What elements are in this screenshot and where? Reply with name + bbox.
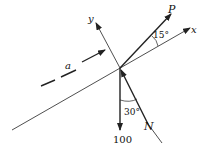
acceleration-dash-1: [41, 80, 55, 86]
y-axis-label: y: [87, 13, 94, 24]
force-p-arrow: [120, 14, 171, 68]
angle-p-label: 15°: [153, 30, 169, 40]
weight-label: 100: [113, 134, 132, 145]
force-n-label: N: [143, 120, 154, 133]
angle-arc-30: [120, 99, 137, 101]
y-axis-line: [96, 23, 120, 68]
acceleration-arrow: [82, 50, 105, 62]
angle-n-label: 30°: [124, 107, 140, 117]
acceleration-dash-2: [61, 70, 76, 77]
force-p-label: P: [167, 3, 176, 16]
acceleration-label: a: [65, 60, 71, 71]
free-body-diagram: y x P 15° a 30° N 100: [0, 0, 205, 155]
x-axis-label: x: [191, 24, 197, 35]
incline-x-axis-line: [12, 28, 190, 130]
